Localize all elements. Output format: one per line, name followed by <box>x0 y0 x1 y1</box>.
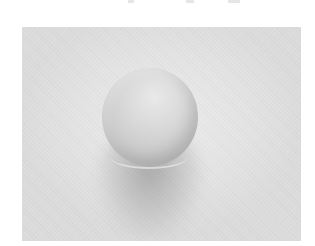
ball-rim-highlight <box>110 145 188 169</box>
cropped-caption-fragments <box>0 0 315 6</box>
photo <box>22 27 301 241</box>
caption-fragment <box>186 0 194 3</box>
caption-fragment <box>228 0 240 3</box>
caption-fragment <box>128 0 134 3</box>
